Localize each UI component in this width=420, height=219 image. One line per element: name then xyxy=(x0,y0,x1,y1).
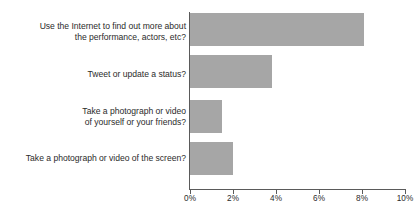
plot-area xyxy=(190,12,405,189)
category-label-0: Use the Internet to find out more about … xyxy=(0,21,186,44)
x-tick-label-2: 4% xyxy=(256,194,296,204)
x-tick-label-3: 6% xyxy=(299,194,339,204)
horizontal-bar-chart: Use the Internet to find out more about … xyxy=(0,0,420,219)
x-tick-label-4: 8% xyxy=(342,194,382,204)
bar-3 xyxy=(190,142,233,175)
x-axis-line xyxy=(189,189,406,190)
bar-0 xyxy=(190,13,364,46)
x-tick-label-0: 0% xyxy=(170,194,210,204)
y-axis-line xyxy=(189,12,190,190)
category-label-1: Tweet or update a status? xyxy=(0,69,186,80)
x-tick-label-1: 2% xyxy=(213,194,253,204)
bar-2 xyxy=(190,100,222,133)
bar-1 xyxy=(190,55,272,88)
category-label-3: Take a photograph or video of the screen… xyxy=(0,153,186,164)
x-tick-label-5: 10% xyxy=(385,194,420,204)
category-label-2: Take a photograph or video of yourself o… xyxy=(0,106,186,129)
